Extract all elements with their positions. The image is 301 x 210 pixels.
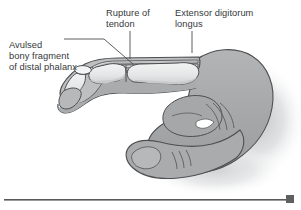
rupture-of-tendon-label: Rupture of tendon [106,8,150,30]
end-square-marker [286,195,294,203]
illustration-canvas [0,0,301,210]
extensor-digitorum-longus-label: Extensor digitorum longus [175,8,253,30]
figure-container: Avulsed bony fragment of distal phalanx … [0,0,301,210]
avulsed-bony-fragment-label: Avulsed bony fragment of distal phalanx [9,40,77,74]
folded-finger-upper [163,95,222,136]
thumbnail [132,147,161,169]
bottom-divider [4,199,292,201]
